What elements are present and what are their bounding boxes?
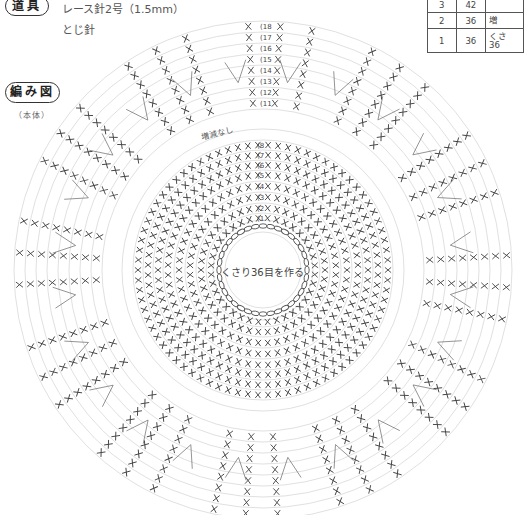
svg-text:(8: (8 — [257, 142, 264, 150]
svg-text:(15: (15 — [260, 56, 272, 64]
round-cell: 3 — [428, 0, 457, 13]
svg-text:(17: (17 — [260, 34, 272, 42]
svg-text:(4: (4 — [257, 183, 265, 191]
round-cell: 2 — [428, 13, 457, 29]
note-cell: 増 — [486, 13, 524, 29]
svg-text:(11: (11 — [260, 100, 272, 108]
svg-text:(3: (3 — [257, 194, 264, 202]
svg-text:(2: (2 — [257, 205, 264, 213]
crochet-chart: (1(2(3(4(5(6(7(8(11(12(13(14(15(16(17(18 — [0, 0, 524, 515]
round-table: 3 42 2 36 増 1 36 くさ 36 — [427, 0, 524, 53]
table-row: 3 42 — [428, 0, 524, 13]
note-cell — [486, 0, 524, 13]
stitch-count-cell: 36 — [456, 13, 485, 29]
svg-text:(13: (13 — [260, 78, 272, 86]
svg-text:(14: (14 — [260, 67, 272, 75]
table-row: 2 36 増 — [428, 13, 524, 29]
round-cell: 1 — [428, 29, 457, 53]
svg-text:(1: (1 — [257, 215, 264, 223]
stitch-count-cell: 42 — [456, 0, 485, 13]
stitch-count-cell: 36 — [456, 29, 485, 53]
svg-text:(5: (5 — [257, 172, 264, 180]
svg-text:(16: (16 — [260, 45, 272, 53]
center-instruction: くさり36目を作る — [221, 264, 304, 279]
svg-text:(7: (7 — [257, 152, 264, 160]
note-cell: くさ 36 — [486, 29, 524, 53]
table-row: 1 36 くさ 36 — [428, 29, 524, 53]
svg-text:(6: (6 — [257, 162, 265, 170]
svg-text:(18: (18 — [260, 23, 272, 31]
svg-text:(12: (12 — [260, 89, 272, 97]
